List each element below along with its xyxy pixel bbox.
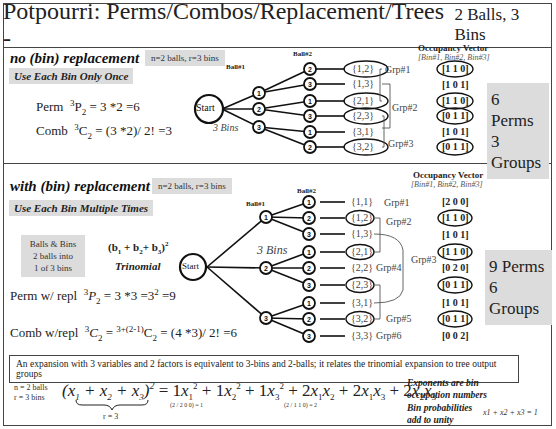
with-replacement-params: n=2 balls, r=3 bins <box>152 178 232 194</box>
occupancy-vector: [1 0 1] <box>442 79 469 90</box>
ball1-label: Ball#1 <box>246 200 265 208</box>
svg-text:3: 3 <box>308 81 312 88</box>
n-label: n = 2 balls <box>14 383 48 392</box>
occupancy-title: Occupancy Vector <box>418 43 488 53</box>
svg-text:3: 3 <box>257 124 261 131</box>
leaf-3-1: {3,1} <box>352 126 374 137</box>
leaf-2-2: {2,2} <box>351 262 373 273</box>
leaf-3-1: {3,1} <box>351 297 373 308</box>
svg-text:1: 1 <box>307 199 311 206</box>
group-label-2: Grp#2 <box>386 216 412 227</box>
start-node-label: Start <box>196 102 215 113</box>
svg-text:3: 3 <box>307 231 311 238</box>
svg-text:2: 2 <box>307 215 311 222</box>
comb-repl-label: Comb w/repl <box>10 325 78 340</box>
balls-bins-line: Balls & Bins <box>23 238 83 250</box>
exponents-note: Exponents are bin occupation numbers <box>407 377 487 401</box>
svg-text:3: 3 <box>307 333 311 340</box>
occupancy-vector: [1 1 0] <box>442 95 469 106</box>
occupancy-vector: [0 1 1] <box>442 141 469 152</box>
occupancy-vector: [0 0 2] <box>442 330 469 341</box>
group-label-3: Grp#3 <box>388 138 414 149</box>
leaf-3-2: {3,2} <box>351 313 373 324</box>
summary-box-with-replacement: 9 Perms 6 Groups <box>485 250 552 325</box>
svg-text:3: 3 <box>308 113 312 120</box>
occupancy-vector: [1 0 1] <box>442 126 469 137</box>
svg-text:1: 1 <box>308 98 312 105</box>
group-label-2: Grp#2 <box>392 102 418 113</box>
group-label-5: Grp#5 <box>386 313 412 324</box>
occupancy-vector: [1 0 1] <box>442 229 469 240</box>
occupancy-vector: [1 1 0] <box>442 212 469 223</box>
summary-perms: 9 Perms <box>489 256 548 277</box>
multinomial-coefficient-1: (2 / 2 0 0) = 1 <box>170 402 203 408</box>
svg-text:1: 1 <box>257 90 261 97</box>
leaf-1-3: {1,3} <box>351 228 373 239</box>
leaf-1-2: {1,2} <box>352 63 374 74</box>
balls-bins-box: Balls & Bins 2 balls into 1 of 3 bins <box>21 235 85 277</box>
perm-repl-formula: Perm w/ repl 3P2 = 3 *3 =32 =9 <box>10 287 176 306</box>
svg-text:2: 2 <box>264 265 268 272</box>
leaf-2-1: {2,1} <box>352 95 374 106</box>
leaf-1-3: {1,3} <box>352 78 374 89</box>
ball2-label: Ball#2 <box>293 50 312 58</box>
occupancy-vector: [1 0 1] <box>442 297 469 308</box>
ball2-label: Ball#2 <box>297 187 316 195</box>
svg-text:2: 2 <box>307 265 311 272</box>
expansion-lhs: (x1 + x2 + x3)2 <box>62 381 154 400</box>
occupancy-vector: [0 1 1] <box>442 279 469 290</box>
trinomial-label: Trinomial <box>115 260 160 272</box>
summary-box-no-replacement: 6 Perms 3 Groups <box>487 83 549 179</box>
occupancy-vector: [1 1 0] <box>442 246 469 257</box>
multinomial-coefficient-2: (2 / 1 1 0) = 2 <box>284 402 317 408</box>
occupancy-subtitle: [Bin#1, Bin#2, Bin#3] <box>418 53 490 62</box>
exponents-note-line: occupation numbers <box>407 389 487 401</box>
balls-bins-line: 2 balls into <box>23 250 83 262</box>
trinomial-formula: (b1 + b2+ b3)2 <box>108 240 168 256</box>
summary-perms: 6 Perms <box>491 89 545 131</box>
expansion-rhs: = 1x12 + 1x22 + 1x32 + 2x1x2 + 2x1x3 + 2… <box>159 381 436 400</box>
svg-text:2: 2 <box>307 316 311 323</box>
probabilities-note: Bin probabilities add to unity <box>407 402 472 426</box>
leaf-3-2: {3,2} <box>352 141 374 152</box>
leaf-1-2: {1,2} <box>351 212 373 223</box>
svg-text:1: 1 <box>307 300 311 307</box>
svg-text:1: 1 <box>307 249 311 256</box>
occupancy-vector: [2 0 0] <box>442 196 469 207</box>
svg-text:3: 3 <box>264 315 268 322</box>
with-replacement-heading: with (bin) replacement <box>10 178 150 195</box>
expansion-equation: (x1 + x2 + x3)2 = 1x12 + 1x22 + 1x32 + 2… <box>62 380 436 402</box>
group-label-1: Grp#1 <box>384 197 410 208</box>
svg-text:1: 1 <box>308 129 312 136</box>
occupancy-title: Occupancy Vector <box>413 170 483 180</box>
svg-text:3: 3 <box>307 282 311 289</box>
leaf-3-3: {3,3} <box>351 330 373 341</box>
probability-equation: x1 + x2 + x3 = 1 <box>483 408 538 417</box>
svg-text:2: 2 <box>257 106 261 113</box>
group-label-6: Grp#6 <box>376 330 402 341</box>
svg-text:2: 2 <box>308 66 312 73</box>
r-label: r = 3 bins <box>14 393 45 402</box>
svg-text:1: 1 <box>264 214 268 221</box>
occupancy-vector: [0 2 0] <box>442 262 469 273</box>
balls-bins-line: 1 of 3 bins <box>23 262 83 274</box>
summary-groups: 6 Groups <box>489 277 548 319</box>
group-label-3: Grp#3 <box>411 254 437 265</box>
bins-label: 3 Bins <box>213 122 238 133</box>
perm-repl-label: Perm w/ repl <box>10 288 77 303</box>
exponents-note-line: Exponents are bin <box>407 377 487 389</box>
occupancy-vector: [0 1 1] <box>442 313 469 324</box>
comb-repl-formula: Comb w/repl 3C2 = 3+(2-1)C2 = (4 *3)/ 2!… <box>10 324 237 343</box>
start-node-label: Start <box>182 261 199 271</box>
group-label-4: Grp#4 <box>376 262 402 273</box>
ball1-label: Ball#1 <box>226 63 245 71</box>
prob-note-line: add to unity <box>407 414 472 426</box>
summary-groups: 3 Groups <box>491 131 545 173</box>
occupancy-vector: [1 1 0] <box>442 63 469 74</box>
leaf-2-3: {2,3} <box>351 279 373 290</box>
bins-label: 3 Bins <box>257 243 287 258</box>
occupancy-subtitle: [Bin#1, Bin#2, Bin#3] <box>411 180 483 189</box>
group-label-1: Grp#1 <box>385 64 411 75</box>
leaf-2-1: {2,1} <box>351 246 373 257</box>
with-replacement-subheading: Use Each Bin Multiple Times <box>9 200 153 216</box>
